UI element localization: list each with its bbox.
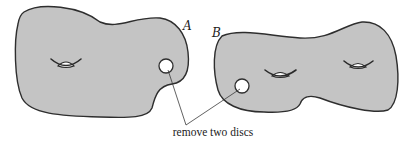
caption: remove two discs — [173, 126, 254, 138]
surface-b: B — [211, 22, 398, 112]
surface-a: A — [15, 7, 192, 118]
surface-b-label: B — [211, 26, 221, 40]
diagram-canvas: A B remove two discs — [0, 0, 410, 144]
surface-b-body — [214, 22, 398, 112]
removed-disc-a — [159, 59, 173, 73]
leader-line-b — [186, 89, 240, 125]
surface-a-label: A — [182, 19, 192, 33]
